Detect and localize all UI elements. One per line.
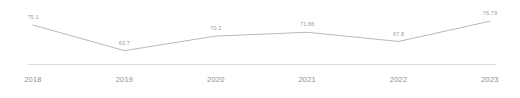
value-label-2021: 71.86	[300, 22, 314, 28]
x-tick-2019: 2019	[116, 76, 134, 84]
value-label-2023: 76.79	[483, 11, 497, 17]
value-label-2018: 75.1	[27, 15, 38, 21]
value-label-2019: 63.7	[119, 41, 130, 47]
x-tick-2020: 2020	[207, 76, 225, 84]
x-tick-2022: 2022	[390, 76, 408, 84]
series-line	[33, 21, 490, 50]
x-tick-2021: 2021	[298, 76, 316, 84]
value-label-2022: 67.8	[393, 32, 404, 38]
value-label-2020: 70.2	[210, 26, 221, 32]
chart-plot-area	[0, 0, 520, 98]
line-chart: 75.1 63.7 70.2 71.86 67.8 76.79 2018 201…	[0, 0, 520, 98]
x-tick-2023: 2023	[481, 76, 499, 84]
x-tick-2018: 2018	[24, 76, 42, 84]
